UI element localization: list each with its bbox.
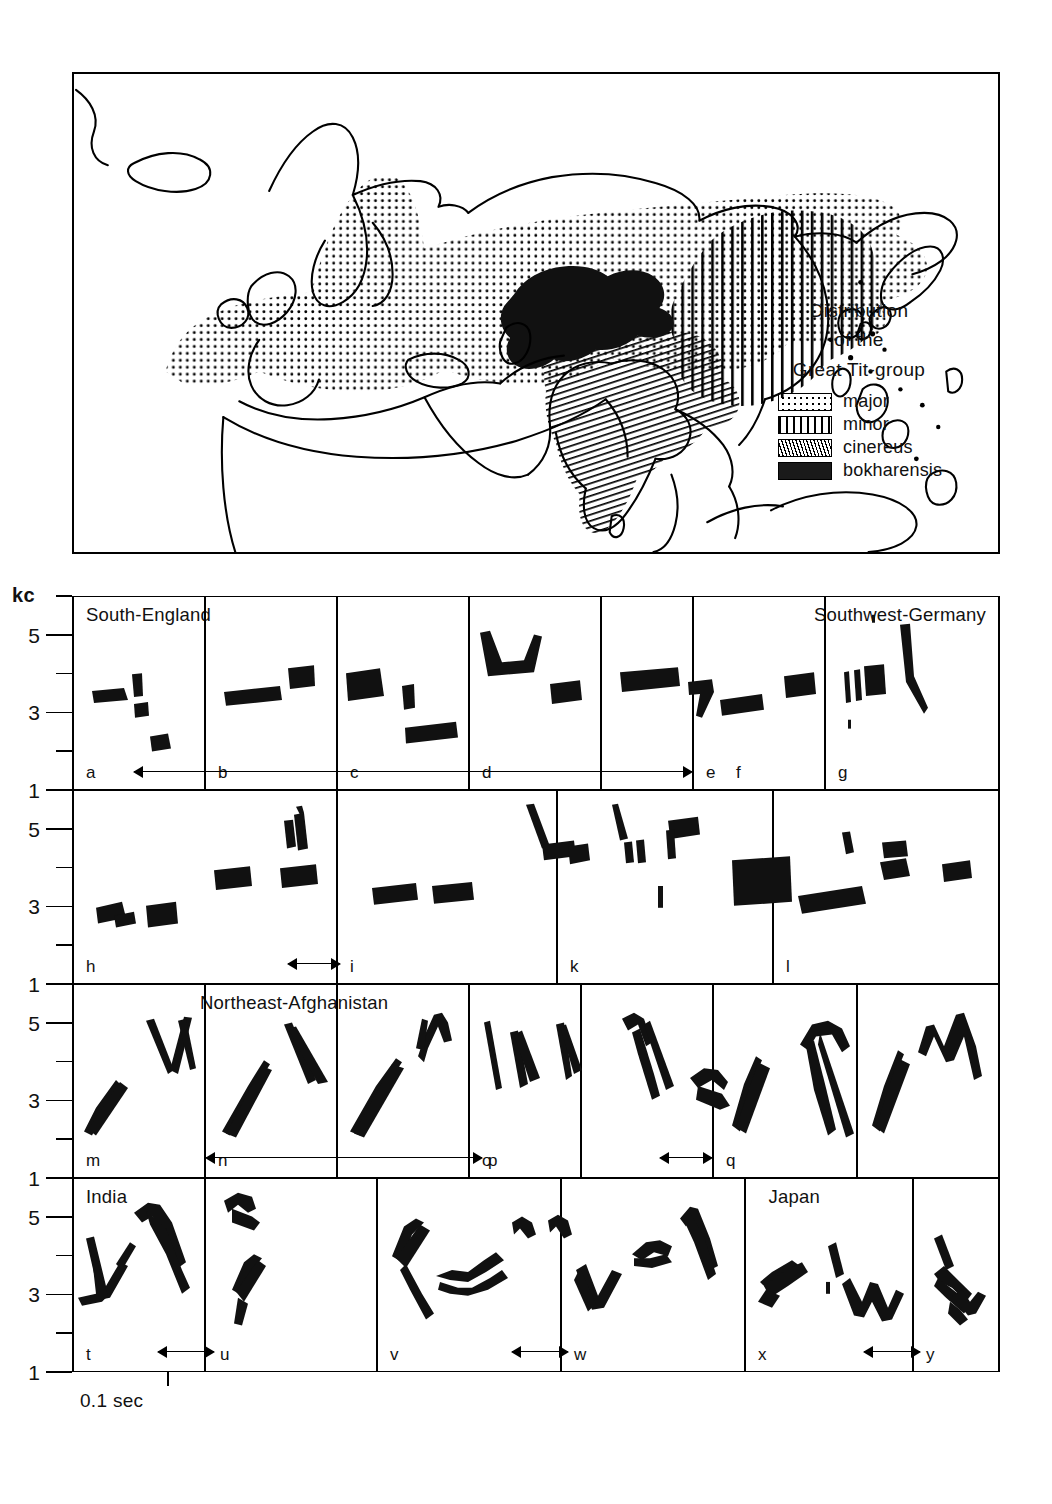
y-tick-label-5-row-0: 5 [28,624,40,645]
row-2-traces [72,985,1000,1177]
y-tick-4-row-0 [56,673,72,675]
legend-entry-cinereus: cinereus [778,436,984,459]
panel-label-a: a [86,764,95,781]
sonogram-grid: South-England Southwest-Germany [72,596,1000,1372]
y-tick-6-row-2 [56,983,72,985]
panel-label-x: x [758,1346,767,1363]
distribution-map: Distribution of the Great Tit-group majo… [72,72,1000,554]
y-tick-2-row-2 [56,1138,72,1140]
sonogram-row-1: h i k l [72,790,1000,984]
legend-label-bokharensis: bokharensis [843,460,942,481]
y-tick-3-row-1 [46,906,72,908]
arrow-t-to-u [158,1345,214,1359]
panel-label-i: i [350,958,354,975]
y-tick-6-row-1 [56,789,72,791]
panel-label-f: f [736,764,741,781]
panel-label-w: w [574,1346,586,1363]
y-tick-label-1-row-1: 1 [28,974,40,995]
legend-entry-bokharensis: bokharensis [778,459,984,482]
y-tick-label-5-row-2: 5 [28,1012,40,1033]
panel-label-t: t [86,1346,91,1363]
panel-label-m: m [86,1152,100,1169]
legend-entry-minor: minor [778,413,984,436]
y-tick-label-3-row-3: 3 [28,1284,40,1305]
panel-label-q: q [726,1152,735,1169]
y-tick-label-5-row-3: 5 [28,1206,40,1227]
y-tick-label-1-row-3: 1 [28,1362,40,1383]
y-axis: 531531531531 [0,596,72,1372]
legend-label-minor: minor [843,414,889,435]
arrow-h-to-i [288,957,340,971]
x-scale-tick [167,1372,169,1386]
y-tick-4-row-1 [56,867,72,869]
legend-label-cinereus: cinereus [843,437,913,458]
row-3-traces [72,1179,1000,1371]
y-tick-3-row-2 [46,1100,72,1102]
arrow-p-to-q [660,1151,712,1165]
arrow-b-to-e [134,765,692,779]
arrow-x-to-y [864,1345,920,1359]
y-tick-label-3-row-0: 3 [28,702,40,723]
arrow-m-to-o [206,1151,482,1165]
legend-label-major: major [843,391,889,412]
y-tick-label-1-row-2: 1 [28,1168,40,1189]
y-tick-1-row-3 [46,1371,72,1373]
y-tick-2-row-1 [56,944,72,946]
y-tick-label-1-row-0: 1 [28,780,40,801]
legend-title: Distribution of the Great Tit-group [734,296,984,384]
y-tick-5-row-0 [46,634,72,636]
sonogram-row-0: South-England Southwest-Germany [72,596,1000,790]
legend-entry-major: major [778,390,984,413]
panel-label-k: k [570,958,579,975]
sonogram-row-2: Northeast-Afghanistan [72,984,1000,1178]
cinereus-swatch-icon [778,439,832,457]
major-swatch-icon [778,393,832,411]
panel-label-e: e [706,764,715,781]
y-tick-3-row-0 [46,712,72,714]
y-tick-5-row-3 [46,1216,72,1218]
legend-title-line-3: Great Tit-group [734,355,984,384]
arrow-v-to-w [512,1345,568,1359]
y-tick-4-row-3 [56,1255,72,1257]
legend-title-line-2: of the [734,325,984,354]
y-tick-5-row-2 [46,1022,72,1024]
y-tick-5-row-1 [46,828,72,830]
panel-label-l: l [786,958,790,975]
y-tick-label-3-row-2: 3 [28,1090,40,1111]
map-legend: Distribution of the Great Tit-group majo… [734,296,984,482]
sonogram-row-3: India Japan [72,1178,1000,1372]
y-tick-2-row-3 [56,1332,72,1334]
panel-label-g: g [838,764,847,781]
bokharensis-swatch-icon [778,462,832,480]
y-tick-3-row-3 [46,1294,72,1296]
minor-swatch-icon [778,416,832,434]
x-scale-label: 0.1 sec [80,1390,143,1412]
panel-label-p: p [488,1152,497,1169]
y-tick-label-3-row-1: 3 [28,896,40,917]
panel-label-y: y [926,1346,935,1363]
legend-entries: major minor cinereus bokharensis [734,390,984,482]
y-tick-2-row-0 [56,750,72,752]
panel-label-h: h [86,958,95,975]
y-tick-label-5-row-1: 5 [28,818,40,839]
legend-title-line-1: Distribution [734,296,984,325]
row-1-traces [72,791,1000,983]
y-tick-6-row-0 [56,595,72,597]
y-tick-4-row-2 [56,1061,72,1063]
x-axis-scale [72,1372,1000,1412]
panel-label-u: u [220,1346,229,1363]
y-tick-6-row-3 [56,1177,72,1179]
row-0-traces [72,597,1000,789]
panel-label-v: v [390,1346,399,1363]
